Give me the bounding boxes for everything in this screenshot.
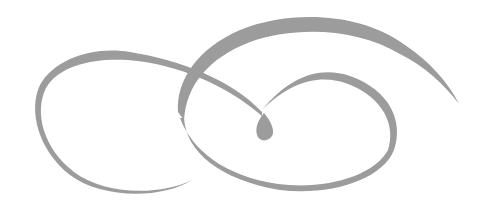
teardrop bbox=[256, 113, 273, 140]
swirl-flourish-icon bbox=[0, 0, 490, 210]
right-lower-loop bbox=[180, 72, 397, 191]
right-upper-arc bbox=[178, 17, 459, 120]
flourish-canvas: Decorative gray calligraphic swirl flour… bbox=[0, 0, 490, 210]
